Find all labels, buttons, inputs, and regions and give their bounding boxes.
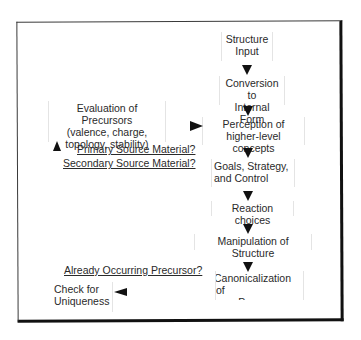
arrow-left-icon xyxy=(114,288,127,296)
arrow-down-icon xyxy=(243,191,253,201)
node-check-uniqueness: Check for Uniqueness xyxy=(51,282,113,312)
arrow-down-icon xyxy=(242,65,252,75)
edge-label-secondary: Secondary Source Material? xyxy=(63,157,196,169)
arrow-up-icon xyxy=(53,141,61,151)
node-canonicalization: Canonicalization of new Precursors xyxy=(215,271,304,300)
node-conversion: Conversion to Internal Form xyxy=(219,76,285,105)
node-perception: Perception of higher-level concepts xyxy=(202,117,305,145)
node-evaluation: Evaluation of Precursors (valence, charg… xyxy=(48,101,166,142)
node-goals: Goals, Strategy, and Control xyxy=(211,159,295,187)
edge-label-primary: Primary Source Material? xyxy=(77,143,195,155)
arrow-right-icon xyxy=(190,121,203,131)
node-manipulation: Manipulation of Structure xyxy=(194,234,312,250)
edge-label-already-occurring: Already Occurring Precursor? xyxy=(64,264,202,276)
node-structure-input: Structure Input xyxy=(221,32,273,61)
arrow-down-icon xyxy=(243,148,253,158)
node-reaction-choices: Reaction choices xyxy=(211,201,294,216)
arrow-down-icon xyxy=(243,224,253,234)
arrow-down-icon xyxy=(243,106,253,116)
